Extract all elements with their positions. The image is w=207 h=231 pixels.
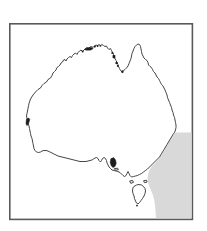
kangaroo-island [115,168,119,170]
australia-map-svg: Map of Australia Black line drawing outl… [0,0,207,231]
map-figure: Map of Australia Black line drawing outl… [0,0,207,231]
tasmania-islet [136,205,138,207]
